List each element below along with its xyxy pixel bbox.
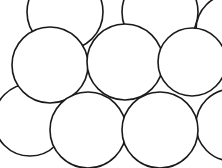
front-circle: [12, 27, 88, 103]
back-circle: [196, 89, 222, 161]
diagram-canvas: [0, 0, 222, 168]
circle-packing-diagram: [0, 0, 222, 168]
front-circle: [158, 28, 222, 96]
front-circle: [50, 92, 126, 168]
front-circle: [122, 92, 198, 168]
front-circle: [87, 24, 163, 100]
